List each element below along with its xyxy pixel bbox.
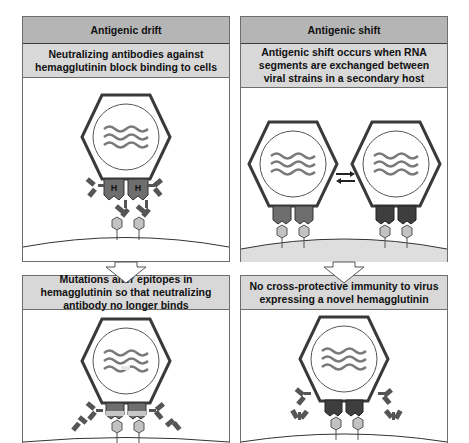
down-arrow-icon (324, 262, 364, 283)
mutated-epitope (128, 411, 146, 416)
host-cell-membrane (23, 238, 229, 248)
diagram-illustrations: H H (0, 0, 469, 443)
virus-drift-neutralized: H H (82, 95, 170, 240)
exchange-arrows-icon (336, 171, 355, 184)
virus-strain-a (249, 122, 337, 224)
svg-text:H: H (111, 183, 118, 193)
virus-novel-hemagglutinin (290, 317, 402, 440)
virus-drift-mutated (71, 319, 181, 443)
host-cell-secondary (241, 239, 447, 262)
down-arrow-icon (106, 262, 146, 283)
virus-strain-b (352, 122, 440, 224)
mutated-epitope (106, 411, 124, 416)
svg-text:H: H (135, 183, 142, 193)
mutation-highlight (121, 366, 130, 370)
antibodies-unbound (71, 401, 181, 432)
